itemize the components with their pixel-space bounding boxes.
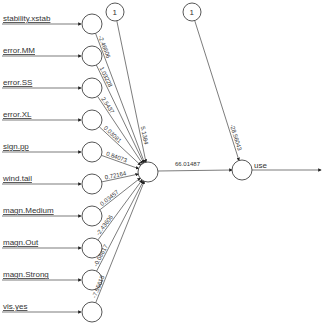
input-node (82, 142, 102, 162)
output-label: use (254, 161, 267, 170)
hidden-output-edge (158, 170, 232, 171)
input-node (82, 78, 102, 98)
input-node (82, 14, 102, 34)
input-node (82, 174, 102, 194)
input-label: vis.yes (3, 302, 27, 311)
input-node (82, 46, 102, 66)
hidden-output-weight: 66.01487 (175, 161, 201, 167)
weight-edge (100, 178, 140, 210)
hidden-node (138, 162, 158, 182)
bias-label: 1 (113, 8, 118, 17)
weight-label: 0.03081 (103, 125, 123, 145)
bias-weight-label: -28.56043 (229, 124, 243, 152)
input-label: stability.xstab (3, 14, 51, 23)
weight-edge (98, 180, 142, 240)
input-label: wind.tail (2, 174, 32, 183)
input-node (82, 302, 102, 322)
input-node (82, 206, 102, 226)
neural-network-diagram: stability.xstab-2.46606error.MM1.03228er… (0, 0, 323, 324)
input-label: magn.Out (3, 238, 39, 247)
bias-output-edge (195, 21, 239, 161)
weight-label: 0.03457 (99, 188, 120, 207)
bias-label: 1 (190, 8, 195, 17)
weight-label: 0.84073 (105, 151, 128, 164)
input-label: error.SS (3, 78, 32, 87)
input-label: magn.Medium (3, 206, 54, 215)
weight-edge (96, 65, 143, 163)
input-label: error.MM (3, 46, 35, 55)
input-label: sign.pp (3, 142, 29, 151)
bias-weight-label: 5.1384 (140, 126, 150, 146)
input-node (82, 110, 102, 130)
input-label: error.XL (3, 110, 32, 119)
input-label: magn.Strong (3, 270, 49, 279)
output-node (232, 160, 252, 180)
